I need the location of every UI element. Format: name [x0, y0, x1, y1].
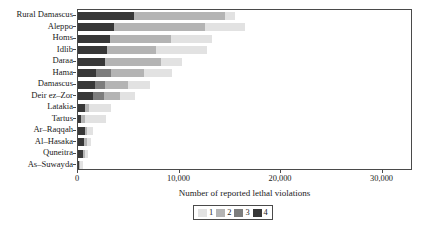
legend-label: 4 — [264, 209, 268, 217]
bar-row — [78, 115, 106, 123]
x-axis-tick — [179, 170, 180, 173]
bar-segment-2 — [107, 46, 156, 54]
y-axis-label: Homs — [0, 33, 73, 42]
bar-row — [78, 104, 111, 112]
y-axis-label: Deir ez–Zor — [0, 91, 73, 100]
bar-segment-4 — [78, 35, 110, 43]
x-axis-tick-label: 30,000 — [352, 174, 412, 183]
y-axis-tick — [73, 72, 76, 73]
legend-swatch-4 — [253, 209, 262, 217]
bar-segment-4 — [78, 12, 134, 20]
x-axis-tick — [280, 170, 281, 173]
x-axis-tick — [77, 170, 78, 173]
bar-segment-1 — [161, 58, 181, 66]
bar-segment-1 — [87, 138, 91, 146]
bar-segment-2 — [104, 92, 119, 100]
bar-segment-4 — [78, 23, 114, 31]
legend-label: 3 — [245, 209, 249, 217]
y-axis-labels: Rural DamascusAleppoHomsIdlibDaraaHamaDa… — [0, 9, 73, 170]
bar-row — [78, 92, 135, 100]
bar-row — [78, 138, 91, 146]
bar-row — [78, 23, 245, 31]
x-axis-tick — [382, 170, 383, 173]
y-axis-tick — [73, 118, 76, 119]
y-axis-tick — [73, 15, 76, 16]
y-axis-label: Daraa — [0, 56, 73, 65]
legend-swatch-1 — [198, 209, 207, 217]
x-axis-tick-label: 0 — [47, 174, 107, 183]
bar-row — [78, 58, 182, 66]
y-axis-label: Idlib — [0, 45, 73, 54]
y-axis-tick — [73, 49, 76, 50]
legend-item[interactable]: 4 — [253, 209, 268, 217]
y-axis-label: Ar–Raqqah — [0, 125, 73, 134]
bar-segment-1 — [85, 115, 106, 123]
y-axis-tick — [73, 61, 76, 62]
bar-segment-2 — [114, 23, 205, 31]
bar-row — [78, 161, 83, 169]
x-axis-title: Number of reported lethal violations — [77, 188, 412, 198]
bar-segment-3 — [93, 92, 104, 100]
bar-segment-2 — [105, 81, 127, 89]
bar-segment-3 — [95, 81, 105, 89]
x-axis-tick-label: 10,000 — [149, 174, 209, 183]
y-axis-label: Aleppo — [0, 22, 73, 31]
bar-segment-2 — [134, 12, 225, 20]
bar-row — [78, 81, 150, 89]
bar-segment-1 — [85, 150, 88, 158]
bar-segment-1 — [205, 23, 246, 31]
legend-label: 2 — [227, 209, 231, 217]
bar-segment-1 — [144, 69, 172, 77]
y-axis-label: Al–Hasaka — [0, 137, 73, 146]
legend-item[interactable]: 1 — [198, 209, 213, 217]
bar-segment-1 — [120, 92, 135, 100]
bar-segment-2 — [110, 35, 171, 43]
bar-segment-3 — [96, 69, 111, 77]
legend-label: 1 — [209, 209, 213, 217]
bar-row — [78, 12, 235, 20]
y-axis-label: Hama — [0, 68, 73, 77]
y-axis-label: Latakia — [0, 102, 73, 111]
bar-segment-4 — [78, 92, 93, 100]
bar-segment-1 — [225, 12, 235, 20]
y-axis-tick — [73, 84, 76, 85]
bar-segment-1 — [171, 35, 212, 43]
chart-legend: 1234 — [193, 205, 273, 220]
x-axis-tick-label: 20,000 — [250, 174, 310, 183]
y-axis-tick — [73, 107, 76, 108]
bar-segment-4 — [78, 69, 96, 77]
bar-segment-4 — [78, 58, 105, 66]
y-axis-label: Rural Damascus — [0, 10, 73, 19]
bar-segment-1 — [156, 46, 207, 54]
y-axis-label: Quneitra — [0, 148, 73, 157]
bars-layer — [78, 10, 411, 169]
y-axis-tick — [73, 130, 76, 131]
y-axis-label: Damascus — [0, 79, 73, 88]
bar-row — [78, 69, 172, 77]
bar-segment-4 — [78, 81, 95, 89]
legend-item[interactable]: 2 — [216, 209, 231, 217]
y-axis-label: Tartus — [0, 114, 73, 123]
bar-row — [78, 35, 212, 43]
bar-segment-1 — [128, 81, 150, 89]
bar-segment-2 — [111, 69, 143, 77]
y-axis-tick — [73, 38, 76, 39]
y-axis-tick — [73, 164, 76, 165]
bar-segment-4 — [78, 127, 85, 135]
plot-area — [77, 9, 412, 170]
legend-item[interactable]: 3 — [234, 209, 249, 217]
y-axis-tick — [73, 141, 76, 142]
bar-row — [78, 150, 88, 158]
bar-segment-4 — [78, 104, 85, 112]
bar-segment-1 — [80, 161, 83, 169]
legend-swatch-2 — [216, 209, 225, 217]
y-axis-tick — [73, 95, 76, 96]
bar-row — [78, 46, 207, 54]
bar-segment-4 — [78, 46, 107, 54]
y-axis-tick — [73, 26, 76, 27]
legend-swatch-3 — [234, 209, 243, 217]
figure-container: Rural DamascusAleppoHomsIdlibDaraaHamaDa… — [0, 0, 426, 236]
y-axis-tick — [73, 153, 76, 154]
y-axis-label: As–Suwayda — [0, 160, 73, 169]
bar-segment-2 — [105, 58, 161, 66]
